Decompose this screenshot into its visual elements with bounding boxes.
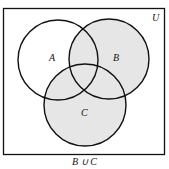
venn-diagram: U A B C — [0, 0, 169, 169]
diagram-caption: B ∪ C — [0, 156, 169, 168]
label-set-a: A — [48, 52, 56, 63]
label-universe: U — [152, 12, 160, 23]
label-set-c: C — [81, 107, 88, 118]
label-set-b: B — [113, 52, 119, 63]
